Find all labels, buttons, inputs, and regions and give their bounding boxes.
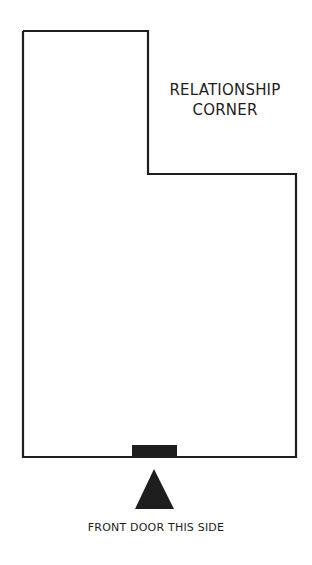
relationship-corner-label: RELATIONSHIP CORNER	[150, 80, 300, 120]
arrow-up-icon	[135, 469, 174, 509]
label-line-1: RELATIONSHIP	[150, 80, 300, 100]
front-door-caption: FRONT DOOR THIS SIDE	[0, 521, 312, 534]
front-door-marker	[132, 445, 177, 457]
label-line-2: CORNER	[150, 100, 300, 120]
